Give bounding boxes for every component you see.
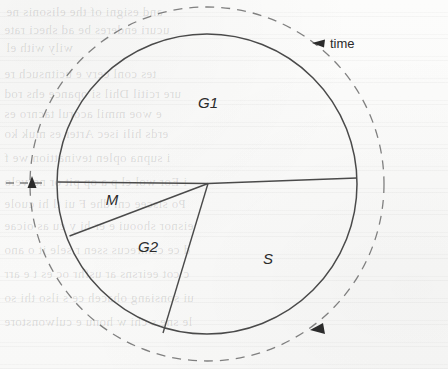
boundary-g1-s: [208, 178, 357, 184]
boundary-g2-s: [163, 184, 208, 334]
cell-cycle-figure: and esigni of the elisonis neucuri ender…: [0, 0, 448, 369]
time-arrowhead-left-icon: [28, 176, 37, 188]
time-label: time: [330, 36, 355, 51]
phase-label-m: M: [106, 191, 119, 208]
boundary-m-g1: [58, 182, 209, 184]
cell-cycle-diagram: G1 M G2 S time: [0, 0, 448, 369]
phase-label-g2: G2: [138, 238, 159, 255]
time-caption-arrowhead-icon: [312, 40, 325, 48]
phase-label-g1: G1: [198, 94, 218, 111]
time-arrowhead-bottom-right-icon: [310, 323, 325, 334]
phase-label-s: S: [263, 250, 273, 267]
boundary-m-g2: [70, 184, 209, 237]
